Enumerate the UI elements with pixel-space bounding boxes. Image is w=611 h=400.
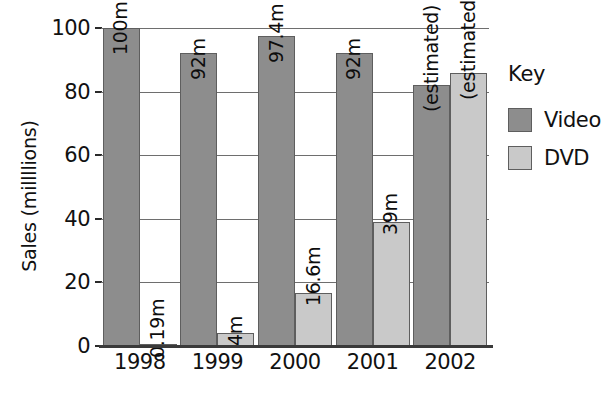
legend-title: Key	[508, 62, 608, 86]
legend-label: Video	[544, 108, 601, 132]
legend-items: VideoDVD	[508, 108, 608, 170]
bar-value-label: 92m	[344, 39, 363, 81]
x-axis-tick-label: 2000	[269, 350, 320, 374]
legend-swatch-dvd	[508, 146, 532, 170]
x-axis-tick-label: 1999	[192, 350, 243, 374]
x-axis-baseline	[99, 345, 493, 348]
bar-value-label: 92m	[189, 39, 208, 81]
bar-video-2001	[336, 53, 373, 346]
bar-value-label: 4m	[226, 316, 245, 346]
bar-value-label: (estimated) 86m	[459, 0, 478, 100]
plot-area: 100m0.19m92m4m97.4m16.6m92m39m(estimated…	[101, 28, 489, 346]
bar-video-1998	[103, 28, 140, 346]
legend-swatch-video	[508, 108, 532, 132]
y-axis-tick-label: 40	[32, 207, 90, 231]
x-axis-tick-label: 2002	[424, 350, 475, 374]
y-axis-tick-label: 60	[32, 143, 90, 167]
x-axis-tick-label: 1998	[114, 350, 165, 374]
bar-value-label: 97.4m	[267, 4, 286, 63]
legend-item-dvd: DVD	[508, 146, 608, 170]
legend-label: DVD	[544, 146, 589, 170]
bar-dvd-2001	[373, 222, 410, 346]
x-axis-tick-labels: 19981999200020012002	[101, 350, 489, 384]
bar-dvd-2002	[450, 73, 487, 346]
legend-item-video: Video	[508, 108, 608, 132]
y-axis-tick-label: 0	[32, 334, 90, 358]
y-axis-tick-label: 100	[32, 16, 90, 40]
bar-video-1999	[180, 53, 217, 346]
bar-video-2000	[258, 36, 295, 346]
bar-chart: Sales (millllions) 020406080100 100m0.19…	[0, 0, 611, 400]
x-axis-tick-label: 2001	[347, 350, 398, 374]
y-axis-tick-labels: 020406080100	[32, 0, 90, 400]
bar-value-label: 16.6m	[304, 247, 323, 306]
bar-video-2002	[413, 85, 450, 346]
y-axis-tick-label: 80	[32, 80, 90, 104]
bar-value-label: (estimated) 82m	[422, 0, 441, 112]
bar-value-label: 39m	[381, 193, 400, 235]
y-axis-tick-label: 20	[32, 270, 90, 294]
bar-value-label: 100m	[111, 1, 130, 55]
legend: Key VideoDVD	[508, 62, 608, 184]
